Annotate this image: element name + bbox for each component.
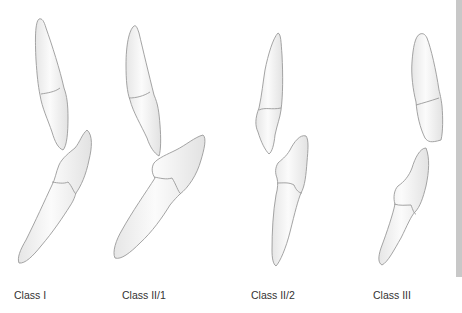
class-2-1-teeth <box>114 26 205 259</box>
page-edge-bar <box>456 0 462 277</box>
label-class-2-1: Class II/1 <box>122 289 166 301</box>
upper-incisor <box>412 34 443 142</box>
label-class-3: Class III <box>373 289 411 301</box>
occlusion-diagram <box>0 0 462 313</box>
lower-incisor <box>379 148 429 265</box>
label-class-2-2: Class II/2 <box>251 289 295 301</box>
class-2-2-teeth <box>256 33 308 266</box>
class-1-teeth <box>18 19 91 263</box>
lower-incisor <box>272 136 308 266</box>
class-3-teeth <box>379 34 443 265</box>
upper-incisor <box>35 19 68 150</box>
lower-incisor <box>18 130 91 263</box>
upper-incisor <box>256 33 283 154</box>
label-class-1: Class I <box>14 289 46 301</box>
upper-incisor <box>126 26 161 156</box>
